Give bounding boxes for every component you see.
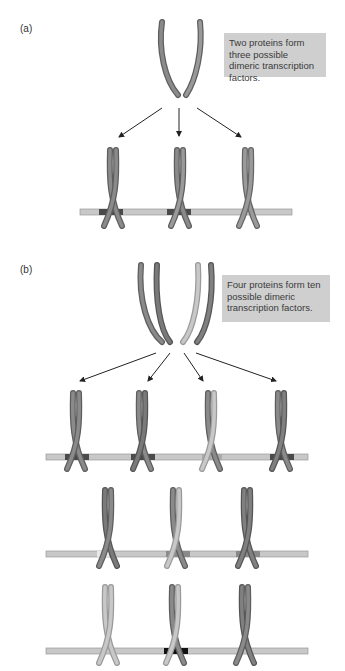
panel-b-monomers	[140, 265, 211, 342]
panel-a-monomers	[161, 22, 201, 95]
panel-b-arrows	[80, 353, 276, 381]
panel-b-row1-dna	[46, 454, 308, 460]
panel-a-arrows	[119, 108, 241, 137]
diagram-canvas	[0, 0, 345, 671]
